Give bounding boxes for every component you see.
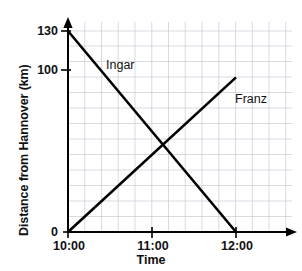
y-tick-label-130: 130 bbox=[12, 25, 58, 38]
chart-figure: Distance from Hannover (km) Time 130 100… bbox=[0, 0, 302, 271]
x-tick-label-1200: 12:00 bbox=[209, 240, 265, 253]
x-tick-label-1000: 10:00 bbox=[41, 240, 97, 253]
y-tick-label-0: 0 bbox=[12, 226, 58, 239]
y-axis-label: Distance from Hannover (km) bbox=[18, 64, 31, 236]
x-axis-label: Time bbox=[137, 254, 166, 267]
x-tick-label-1100: 11:00 bbox=[125, 240, 181, 253]
series-label-ingar: Ingar bbox=[106, 59, 135, 72]
y-tick-label-100: 100 bbox=[12, 64, 58, 77]
series-label-franz: Franz bbox=[235, 93, 267, 106]
